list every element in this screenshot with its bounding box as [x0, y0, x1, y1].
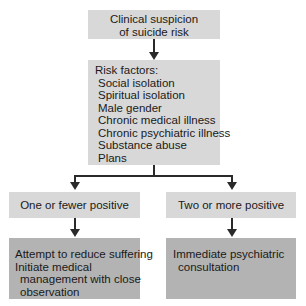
- action-box-right: Immediate psychiatric consultation: [166, 238, 296, 299]
- risk-factor-item: Chronic medical illness: [95, 114, 220, 127]
- action-line: consultation: [173, 261, 296, 274]
- start-line-2: of suicide risk: [88, 26, 220, 39]
- arrowhead-icon: [227, 229, 237, 237]
- arrowhead-icon: [70, 229, 80, 237]
- start-box: Clinical suspicion of suicide risk: [88, 10, 220, 39]
- risk-factor-item: Chronic psychiatric illness: [95, 127, 220, 140]
- condition-box-left: One or fewer positive: [9, 192, 140, 218]
- action-line: Attempt to reduce suffering: [15, 248, 140, 261]
- action-line: observation: [15, 286, 140, 299]
- start-line-1: Clinical suspicion: [88, 13, 220, 26]
- risk-factor-item: Social isolation: [95, 77, 220, 90]
- action-box-left: Attempt to reduce suffering Initiate med…: [9, 238, 140, 299]
- risk-factor-item: Plans: [95, 152, 220, 165]
- risk-factors-heading: Risk factors:: [95, 64, 220, 77]
- risk-factors-box: Risk factors: Social isolation Spiritual…: [88, 60, 220, 165]
- risk-factor-item: Substance abuse: [95, 139, 220, 152]
- risk-factor-item: Male gender: [95, 102, 220, 115]
- condition-label: Two or more positive: [166, 199, 296, 212]
- action-line: management with close: [15, 273, 140, 286]
- condition-label: One or fewer positive: [9, 199, 140, 212]
- risk-factor-item: Spiritual isolation: [95, 89, 220, 102]
- arrowhead-icon: [70, 182, 80, 190]
- action-line: Immediate psychiatric: [173, 248, 296, 261]
- condition-box-right: Two or more positive: [166, 192, 296, 218]
- arrowhead-icon: [149, 52, 159, 60]
- connector-start-to-risk: [153, 39, 155, 53]
- connector-split-horizontal: [74, 175, 233, 177]
- arrowhead-icon: [227, 182, 237, 190]
- action-line: Initiate medical: [15, 261, 140, 274]
